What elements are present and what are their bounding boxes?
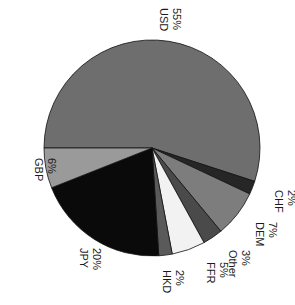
svg-text:3%: 3% — [240, 250, 252, 266]
pie-chart: USD 55% CHF 2% DEM 7% Other 3% FFR 5% HK… — [0, 0, 295, 305]
svg-text:FFR: FFR — [205, 262, 217, 283]
svg-text:5%: 5% — [218, 262, 230, 278]
svg-text:JPY: JPY — [78, 248, 90, 269]
svg-text:2%: 2% — [286, 190, 295, 206]
svg-text:USD: USD — [158, 8, 170, 31]
label-chf: CHF 2% — [273, 190, 295, 213]
svg-text:7%: 7% — [267, 222, 279, 238]
svg-text:20%: 20% — [91, 248, 103, 270]
label-dem: DEM 7% — [254, 222, 279, 246]
svg-text:6%: 6% — [46, 158, 58, 174]
label-usd: USD 55% — [158, 8, 183, 31]
svg-text:DEM: DEM — [254, 222, 266, 246]
svg-text:CHF: CHF — [273, 190, 285, 213]
svg-text:55%: 55% — [171, 8, 183, 30]
pie-slices — [44, 40, 260, 256]
label-hkd: HKD 2% — [161, 270, 186, 293]
label-ffr: FFR 5% — [205, 262, 230, 283]
svg-text:GBP: GBP — [33, 158, 45, 181]
svg-text:HKD: HKD — [161, 270, 173, 293]
svg-text:2%: 2% — [174, 270, 186, 286]
label-jpy: JPY 20% — [78, 248, 103, 270]
